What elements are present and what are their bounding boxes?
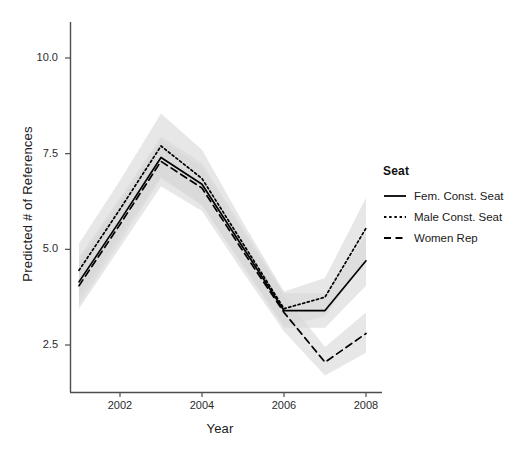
x-tick-label: 2006 [261,399,307,411]
legend: Seat Fem. Const. SeatMale Const. SeatWom… [383,164,507,249]
y-tick-label: 2.5 [18,338,58,350]
x-tick-label: 2008 [343,399,389,411]
solid-line-key [383,189,407,203]
x-axis-title: Year [206,421,233,436]
legend-item: Male Const. Seat [383,207,507,226]
x-axis-title-wrap: Year [70,419,370,437]
legend-item-label: Male Const. Seat [414,211,502,223]
legend-title: Seat [383,164,507,178]
legend-items: Fem. Const. SeatMale Const. SeatWomen Re… [383,186,507,247]
chart-figure: 2.55.07.510.0 2002200420062008 Predicted… [0,0,509,452]
y-axis-title-wrap: Predicted # of References [18,94,36,314]
legend-item-label: Fem. Const. Seat [414,190,503,202]
legend-item: Women Rep [383,228,507,247]
legend-item-label: Women Rep [414,232,478,244]
y-tick-label: 10.0 [18,51,58,63]
x-tick-label: 2002 [97,399,143,411]
x-tick-label: 2004 [179,399,225,411]
legend-item: Fem. Const. Seat [383,186,507,205]
dashed-line-key [383,231,407,245]
y-axis-title: Predicted # of References [20,126,35,281]
dotted-line-key [383,210,407,224]
